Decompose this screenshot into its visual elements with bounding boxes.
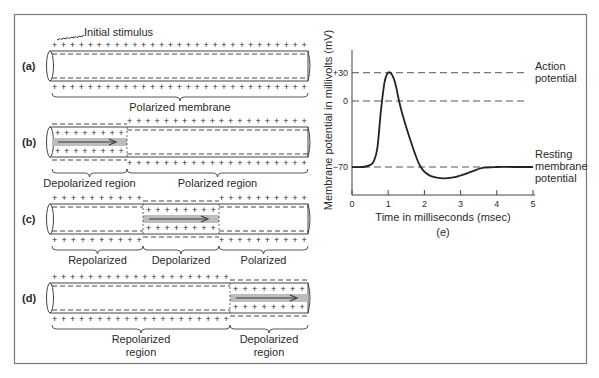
region-depolarized: + + + + + + + ++ + + + + + + +Depolarize… — [230, 280, 308, 358]
positive-charge-row: + + + + + + + + + + + + + + + + + + + + — [52, 314, 229, 324]
positive-charge-row: + + + + + + + + + + + + + + + + + + + + … — [52, 82, 307, 92]
axon-panel-b: (b)+ + + + + + + ++ + + + + + + +Depolar… — [22, 116, 310, 189]
region-brace — [52, 169, 127, 177]
chart-panel-label: (e) — [436, 226, 449, 238]
x-tick-label: 3 — [458, 199, 463, 209]
initial-stimulus-label: Initial stimulus — [84, 26, 154, 38]
x-tick-label: 0 — [349, 199, 354, 209]
x-axis-label: Time in milliseconds (msec) — [375, 211, 510, 223]
positive-charge-row: + + + + + + + + + + — [52, 235, 142, 245]
axon-end — [47, 283, 54, 313]
region-brace — [52, 325, 230, 333]
positive-charge-row: + + + + + + + + — [55, 128, 124, 138]
region-label: Depolarized — [240, 333, 299, 345]
positive-charge-row: + + + + + + + + — [146, 223, 216, 233]
region-brace — [143, 246, 219, 254]
region-label: Polarized region — [178, 177, 258, 189]
axon-cylinder — [50, 51, 308, 81]
region-label: Depolarized — [152, 254, 211, 266]
x-tick-label: 4 — [494, 199, 499, 209]
x-tick-label: 1 — [386, 199, 391, 209]
region-brace — [230, 325, 308, 333]
y-tick-label: 0 — [343, 96, 348, 106]
axon-panel-a: (a)+ + + + + + + + + + + + + + + + + + +… — [22, 40, 310, 113]
reference-line-label: membrane — [535, 160, 588, 172]
region-label: Repolarized — [112, 333, 171, 345]
axon-end — [47, 51, 54, 81]
y-axis-label: Membrane potential in millivolts (mV) — [322, 30, 334, 210]
axon-panel-c: (c)+ + + + + + + + + ++ + + + + + + + + … — [22, 193, 310, 266]
panel-label-d: (d) — [22, 292, 36, 304]
region-label: region — [254, 346, 285, 358]
axon-panel-d: (d)+ + + + + + + + + + + + + + + + + + +… — [22, 272, 310, 358]
region-label: Repolarized — [68, 254, 127, 266]
axon-end — [47, 204, 54, 234]
panel-label-b: (b) — [22, 136, 36, 148]
region-brace — [52, 93, 308, 101]
region-brace — [52, 246, 143, 254]
y-tick-label: −70 — [333, 162, 348, 172]
positive-charge-row: + + + + + + + + — [146, 205, 216, 215]
x-tick-label: 2 — [422, 199, 427, 209]
action-potential-figure: Initial stimulus (a)+ + + + + + + + + + … — [0, 0, 599, 378]
membrane-potential-chart: 012345+300−70ActionpotentialRestingmembr… — [322, 30, 588, 238]
reference-line-label: potential — [535, 72, 577, 84]
axon-panels: (a)+ + + + + + + + + + + + + + + + + + +… — [22, 40, 310, 358]
y-tick-label: +30 — [333, 68, 348, 78]
region-label: region — [126, 346, 157, 358]
positive-charge-row: + + + + + + + + + + — [52, 193, 142, 203]
reference-line-label: potential — [535, 172, 577, 184]
positive-charge-row: + + + + + + + + + + + + + + + + + + + + … — [52, 40, 307, 50]
x-tick-label: 5 — [530, 199, 535, 209]
region-label: Polarized — [241, 254, 287, 266]
reference-line-label: Resting — [535, 148, 572, 160]
positive-charge-row: + + + + + + + + — [233, 302, 305, 312]
positive-charge-row: + + + + + + + + + + — [219, 193, 307, 203]
panel-label-c: (c) — [22, 213, 36, 225]
region-label: Depolarized region — [43, 177, 135, 189]
region-brace — [219, 246, 308, 254]
region-brace — [127, 169, 308, 177]
positive-charge-row: + + + + + + + + — [233, 284, 305, 294]
region-label: Polarized membrane — [129, 101, 231, 113]
positive-charge-row: + + + + + + + + + + + + + + + + + + + + — [127, 158, 307, 168]
panel-label-a: (a) — [22, 60, 36, 72]
positive-charge-row: + + + + + + + + + + + + + + + + + + + + — [52, 272, 229, 282]
reference-line-label: Action — [535, 60, 566, 72]
positive-charge-row: + + + + + + + + — [55, 146, 124, 156]
positive-charge-row: + + + + + + + + + + — [219, 235, 307, 245]
positive-charge-row: + + + + + + + + + + + + + + + + + + + + — [127, 116, 307, 126]
action-potential-curve — [352, 72, 533, 178]
